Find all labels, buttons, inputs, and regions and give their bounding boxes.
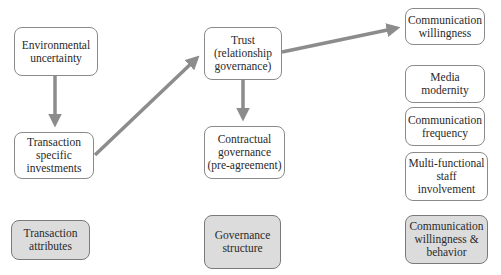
node-transaction-specific-investments: Transaction specific investments — [14, 132, 94, 179]
node-label: Transaction specific investments — [27, 136, 82, 175]
node-media-modernity: Media modernity — [405, 65, 485, 103]
node-label: Multi-functional staff involvement — [408, 157, 484, 196]
node-multi-functional-staff: Multi-functional staff involvement — [405, 152, 488, 201]
category-label: Governance structure — [215, 229, 271, 255]
arrow-trust-to-commwill — [282, 28, 397, 52]
node-label: Trust (relationship governance) — [214, 34, 272, 73]
category-label: Transaction attributes — [24, 227, 78, 253]
node-label: Communication willingness — [408, 14, 482, 40]
node-communication-frequency: Communication frequency — [405, 107, 485, 146]
node-label: Environmental uncertainty — [22, 39, 90, 65]
category-communication-behavior: Communication willingness & behavior — [405, 215, 488, 264]
node-environmental-uncertainty: Environmental uncertainty — [14, 27, 98, 76]
node-trust: Trust (relationship governance) — [204, 27, 282, 80]
category-transaction-attributes: Transaction attributes — [11, 220, 90, 260]
node-contractual-governance: Contractual governance (pre-agreement) — [204, 126, 285, 179]
node-communication-willingness: Communication willingness — [405, 8, 485, 45]
node-label: Media modernity — [421, 71, 468, 97]
arrow-tsi-to-trust — [95, 58, 197, 155]
node-label: Contractual governance (pre-agreement) — [207, 133, 281, 172]
category-governance-structure: Governance structure — [204, 215, 281, 269]
node-label: Communication frequency — [408, 114, 482, 140]
category-label: Communication willingness & behavior — [409, 220, 483, 259]
